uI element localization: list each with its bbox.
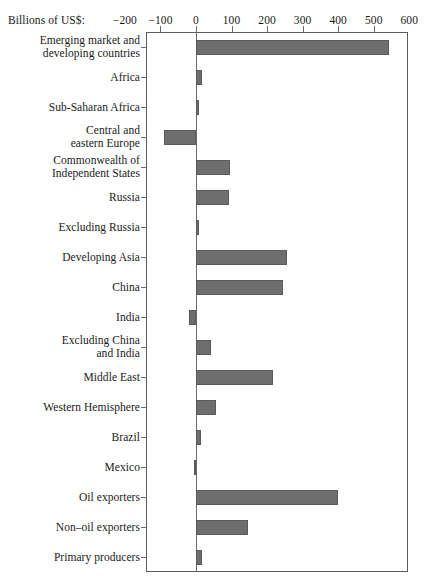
category-tick-mark [141, 197, 147, 198]
bar [196, 280, 283, 295]
category-label-line1: Excluding China [4, 334, 140, 347]
category-tick-mark [141, 437, 147, 438]
x-tick-label-8: 600 [401, 14, 419, 26]
x-tick-label-3: 100 [223, 14, 241, 26]
x-tick-label-1: −100 [148, 14, 172, 26]
bar [194, 460, 197, 475]
category-label-line1: Mexico [4, 461, 140, 474]
category-label-line1: Non–oil exporters [4, 521, 140, 534]
x-tick-label-0: −200 [113, 14, 137, 26]
category-label-line1: Commonwealth of [4, 154, 140, 167]
bar [196, 370, 273, 385]
x-tick-label-4: 200 [258, 14, 276, 26]
chart-row: Brazil [0, 422, 427, 452]
bar [196, 550, 202, 565]
category-label-line1: Western Hemisphere [4, 401, 140, 414]
category-tick-mark [141, 377, 147, 378]
category-label-7: Developing Asia [4, 251, 140, 264]
category-label-8: China [4, 281, 140, 294]
category-label-line2: Independent States [4, 167, 140, 180]
category-tick-mark [141, 227, 147, 228]
category-tick-mark [141, 527, 147, 528]
category-label-6: Excluding Russia [4, 221, 140, 234]
category-tick-mark [141, 287, 147, 288]
category-label-line1: Excluding Russia [4, 221, 140, 234]
category-label-line1: Primary producers [4, 551, 140, 564]
bar [196, 70, 202, 85]
chart-row: Africa [0, 62, 427, 92]
bar [196, 250, 287, 265]
bar [196, 100, 199, 115]
category-label-line1: Middle East [4, 371, 140, 384]
category-tick-mark [141, 557, 147, 558]
bar [196, 160, 230, 175]
category-label-17: Primary producers [4, 551, 140, 564]
category-tick-mark [141, 317, 147, 318]
category-tick-mark [141, 467, 147, 468]
bar-rows-layer: Emerging market anddeveloping countriesA… [0, 32, 427, 572]
category-tick-mark [141, 497, 147, 498]
category-label-12: Western Hemisphere [4, 401, 140, 414]
category-label-11: Middle East [4, 371, 140, 384]
category-label-13: Brazil [4, 431, 140, 444]
bar [164, 130, 196, 145]
bar [189, 310, 196, 325]
category-label-line1: Oil exporters [4, 491, 140, 504]
chart-row: Excluding Russia [0, 212, 427, 242]
category-label-10: Excluding Chinaand India [4, 334, 140, 360]
category-label-line1: Russia [4, 191, 140, 204]
chart-row: Commonwealth ofIndependent States [0, 152, 427, 182]
bar [196, 220, 199, 235]
category-label-0: Emerging market anddeveloping countries [4, 34, 140, 60]
chart-row: Western Hemisphere [0, 392, 427, 422]
category-label-line1: Developing Asia [4, 251, 140, 264]
category-label-line1: Brazil [4, 431, 140, 444]
category-label-line1: Africa [4, 71, 140, 84]
x-tick-label-5: 300 [294, 14, 312, 26]
category-label-line1: China [4, 281, 140, 294]
category-tick-mark [141, 137, 147, 138]
bar [196, 190, 229, 205]
bar [196, 490, 338, 505]
chart-row: Oil exporters [0, 482, 427, 512]
chart-row: Russia [0, 182, 427, 212]
category-label-line2: developing countries [4, 47, 140, 60]
category-label-15: Oil exporters [4, 491, 140, 504]
category-label-9: India [4, 311, 140, 324]
category-label-5: Russia [4, 191, 140, 204]
chart-row: China [0, 272, 427, 302]
x-tick-label-7: 500 [365, 14, 383, 26]
bar [196, 40, 389, 55]
category-tick-mark [141, 257, 147, 258]
chart-row: Primary producers [0, 542, 427, 572]
category-label-2: Sub-Saharan Africa [4, 101, 140, 114]
category-label-line2: eastern Europe [4, 137, 140, 150]
category-tick-mark [141, 77, 147, 78]
category-label-line2: and India [4, 347, 140, 360]
chart-row: Sub-Saharan Africa [0, 92, 427, 122]
x-tick-label-2: 0 [193, 14, 199, 26]
category-label-16: Non–oil exporters [4, 521, 140, 534]
category-label-4: Commonwealth ofIndependent States [4, 154, 140, 180]
category-label-1: Africa [4, 71, 140, 84]
chart-row: Emerging market anddeveloping countries [0, 32, 427, 62]
category-tick-mark [141, 107, 147, 108]
category-label-line1: India [4, 311, 140, 324]
category-tick-mark [141, 347, 147, 348]
chart-row: Mexico [0, 452, 427, 482]
bar-chart-figure: Billions of US$: −200−100010020030040050… [0, 0, 427, 583]
x-tick-label-6: 400 [329, 14, 347, 26]
bar [196, 340, 211, 355]
bar [196, 430, 201, 445]
category-label-line1: Sub-Saharan Africa [4, 101, 140, 114]
chart-row: Non–oil exporters [0, 512, 427, 542]
chart-row: Developing Asia [0, 242, 427, 272]
chart-row: Excluding Chinaand India [0, 332, 427, 362]
category-label-3: Central andeastern Europe [4, 124, 140, 150]
axis-unit-label: Billions of US$: [8, 14, 85, 26]
category-label-line1: Central and [4, 124, 140, 137]
chart-row: Middle East [0, 362, 427, 392]
chart-row: India [0, 302, 427, 332]
category-tick-mark [141, 47, 147, 48]
chart-row: Central andeastern Europe [0, 122, 427, 152]
